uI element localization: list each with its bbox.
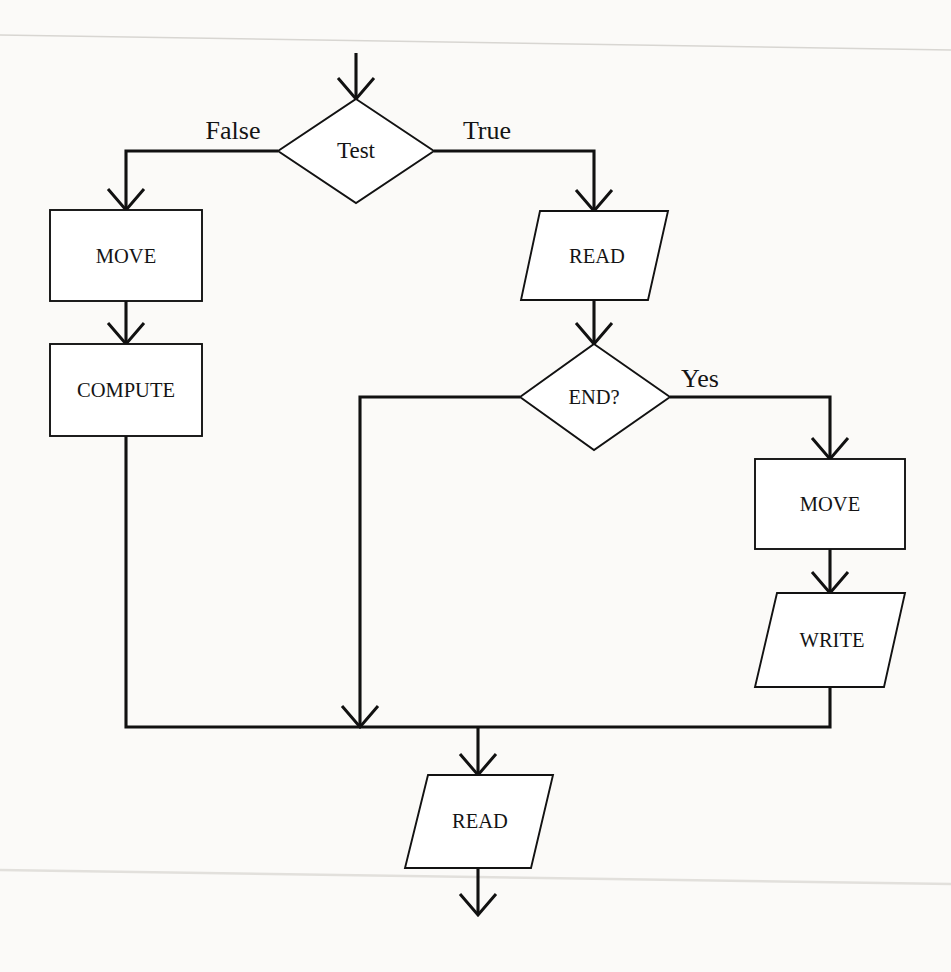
node-label-test: Test bbox=[337, 138, 376, 163]
node-label-compute: COMPUTE bbox=[77, 379, 175, 401]
node-move-left[interactable]: MOVE bbox=[50, 210, 202, 301]
flowchart-svg: Test MOVE COMPUTE READ END? MOVE bbox=[0, 0, 951, 972]
node-label-end-check: END? bbox=[568, 386, 619, 408]
edge-label-true: True bbox=[463, 116, 511, 145]
flowchart-canvas: Test MOVE COMPUTE READ END? MOVE bbox=[0, 0, 951, 972]
node-label-read-top: READ bbox=[569, 245, 625, 267]
node-label-move-right: MOVE bbox=[800, 493, 860, 515]
node-read-bottom[interactable]: READ bbox=[405, 775, 553, 868]
node-label-move-left: MOVE bbox=[96, 245, 156, 267]
node-write[interactable]: WRITE bbox=[755, 593, 905, 687]
edge-label-false: False bbox=[206, 116, 261, 145]
node-compute[interactable]: COMPUTE bbox=[50, 344, 202, 436]
node-move-right[interactable]: MOVE bbox=[755, 459, 905, 549]
node-read-top[interactable]: READ bbox=[521, 211, 668, 300]
node-label-read-bottom: READ bbox=[452, 810, 508, 832]
node-label-write: WRITE bbox=[800, 629, 865, 651]
edge-label-yes: Yes bbox=[681, 364, 719, 393]
